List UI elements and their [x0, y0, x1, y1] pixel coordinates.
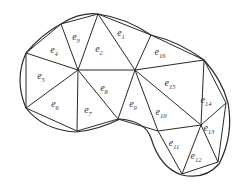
- element-label-subscript: 16: [159, 52, 166, 59]
- mesh-edge-E-L: [201, 60, 204, 125]
- element-label-subscript: 3: [76, 37, 81, 44]
- mesh-edge-E-M: [204, 60, 226, 103]
- element-label-e10: e10: [156, 106, 168, 119]
- element-label-subscript: 2: [100, 49, 104, 56]
- mesh-edge-K-L: [158, 125, 201, 131]
- element-label-e2: e2: [95, 43, 103, 56]
- mesh-edge-J-K: [118, 119, 158, 131]
- element-label-e8: e8: [100, 82, 108, 95]
- mesh-edge-M-O: [218, 103, 226, 162]
- element-label-subscript: 7: [89, 110, 93, 117]
- mesh-edge-B-D: [135, 35, 151, 70]
- mesh-edge-A-C: [78, 14, 98, 70]
- element-label-e7: e7: [84, 104, 92, 117]
- element-label-subscript: 12: [195, 156, 202, 163]
- element-label-subscript: 8: [105, 88, 109, 95]
- mesh-edges: [26, 14, 226, 174]
- element-label-subscript: 6: [56, 104, 60, 111]
- element-label-subscript: 13: [208, 128, 215, 135]
- element-label-subscript: 4: [55, 50, 59, 57]
- element-label-e1: e1: [117, 27, 125, 40]
- element-label-e11: e11: [169, 137, 179, 150]
- element-label-e9: e9: [129, 98, 137, 111]
- mesh-edge-A-G: [26, 53, 78, 70]
- mesh-edge-B-J: [118, 70, 135, 119]
- element-label-e4: e4: [50, 44, 58, 57]
- finite-element-mesh: e1e2e3e4e5e6e7e8e9e10e11e12e13e14e15e16: [0, 0, 246, 188]
- mesh-edge-B-E: [135, 60, 204, 70]
- element-label-e5: e5: [37, 70, 45, 83]
- element-label-e12: e12: [191, 150, 203, 163]
- element-label-e15: e15: [165, 77, 177, 90]
- element-label-e6: e6: [51, 98, 59, 111]
- element-label-subscript: 5: [42, 76, 46, 83]
- element-label-e14: e14: [201, 94, 213, 107]
- element-label-subscript: 9: [134, 104, 138, 111]
- mesh-edge-A-I: [77, 70, 78, 131]
- element-label-subscript: 1: [122, 33, 125, 40]
- element-label-subscript: 14: [205, 100, 212, 107]
- mesh-edge-N-O: [182, 162, 218, 174]
- element-label-e13: e13: [204, 122, 216, 135]
- element-label-e3: e3: [72, 31, 80, 44]
- mesh-edge-I-J: [77, 119, 118, 131]
- element-label-e16: e16: [155, 46, 167, 59]
- element-label-subscript: 15: [169, 83, 176, 90]
- element-label-subscript: 11: [173, 143, 179, 150]
- element-label-subscript: 10: [160, 112, 167, 119]
